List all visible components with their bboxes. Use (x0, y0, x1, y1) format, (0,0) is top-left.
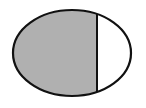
shaded-ellipse-diagram (0, 0, 146, 108)
